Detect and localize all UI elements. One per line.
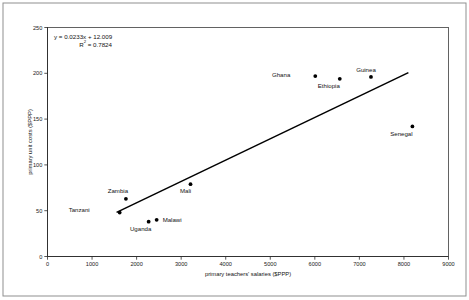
- data-point: Senegal: [390, 125, 414, 138]
- y-tick-label: 150: [33, 116, 42, 122]
- data-point-label: Senegal: [390, 130, 412, 137]
- x-tick-label: 2000: [130, 261, 142, 267]
- data-point: Ethiopia: [318, 77, 342, 89]
- data-point-marker: [155, 218, 159, 222]
- x-tick-label: 1000: [86, 261, 98, 267]
- data-point: Mali: [180, 182, 192, 194]
- x-tick-label: 7000: [353, 261, 365, 267]
- plot-frame: [48, 28, 449, 257]
- data-point-label: Ghana: [272, 71, 291, 78]
- y-tick-label: 100: [33, 162, 42, 168]
- regression-equation-annotation: y = 0.0233x + 12.009R2 = 0.7824: [54, 33, 113, 48]
- x-tick-label: 8000: [398, 261, 410, 267]
- x-axis-ticks: 0100020003000400050006000700080009000: [46, 257, 455, 268]
- data-point-marker: [189, 182, 193, 186]
- data-point-marker: [338, 77, 342, 81]
- plot-area-frame: [48, 28, 449, 257]
- r-squared-suffix: = 0.7824: [86, 41, 113, 48]
- axis-titles: primary teachers' salaries ($PPP)primary…: [27, 109, 292, 277]
- chart-canvas: 0100020003000400050006000700080009000 05…: [0, 0, 469, 300]
- data-point: Guinea: [356, 66, 376, 79]
- data-point-label: Guinea: [356, 66, 376, 73]
- data-point-label: Uganda: [130, 225, 152, 232]
- x-axis-title: primary teachers' salaries ($PPP): [205, 271, 291, 277]
- data-point-marker: [411, 125, 415, 129]
- data-point: Uganda: [130, 220, 152, 232]
- x-tick-label: 9000: [442, 261, 454, 267]
- data-point: Ghana: [272, 71, 317, 78]
- trendline-segment: [117, 73, 409, 213]
- data-point: Tanzani: [69, 206, 122, 215]
- data-points: TanzaniZambiaUgandaMalawiMaliGhanaEthiop…: [69, 66, 415, 232]
- x-tick-label: 4000: [219, 261, 231, 267]
- x-tick-label: 5000: [264, 261, 276, 267]
- r-squared-text: R2 = 0.7824: [79, 38, 112, 47]
- y-tick-label: 0: [39, 254, 42, 260]
- data-point-label: Zambia: [108, 187, 129, 194]
- data-point-marker: [124, 197, 128, 201]
- chart-outer-border: [3, 3, 466, 296]
- data-point: Zambia: [108, 187, 129, 201]
- data-point-marker: [147, 220, 151, 224]
- data-point-label: Tanzani: [69, 206, 90, 213]
- x-tick-label: 6000: [309, 261, 321, 267]
- data-point-label: Malawi: [163, 216, 182, 223]
- data-point-marker: [313, 74, 317, 78]
- x-tick-label: 0: [46, 261, 49, 267]
- y-tick-label: 200: [33, 70, 42, 76]
- trendline: [117, 73, 409, 213]
- data-point-label: Mali: [180, 187, 191, 194]
- data-point-marker: [118, 211, 122, 215]
- y-axis-ticks: 050100150200250: [33, 25, 48, 260]
- data-point-marker: [369, 75, 373, 79]
- scatter-chart: 0100020003000400050006000700080009000 05…: [0, 0, 469, 300]
- data-point: Malawi: [155, 216, 182, 223]
- y-tick-label: 250: [33, 25, 42, 31]
- y-tick-label: 50: [36, 208, 42, 214]
- data-point-label: Ethiopia: [318, 82, 341, 89]
- x-tick-label: 3000: [175, 261, 187, 267]
- y-axis-title: primary unit costs ($PPP): [27, 109, 33, 175]
